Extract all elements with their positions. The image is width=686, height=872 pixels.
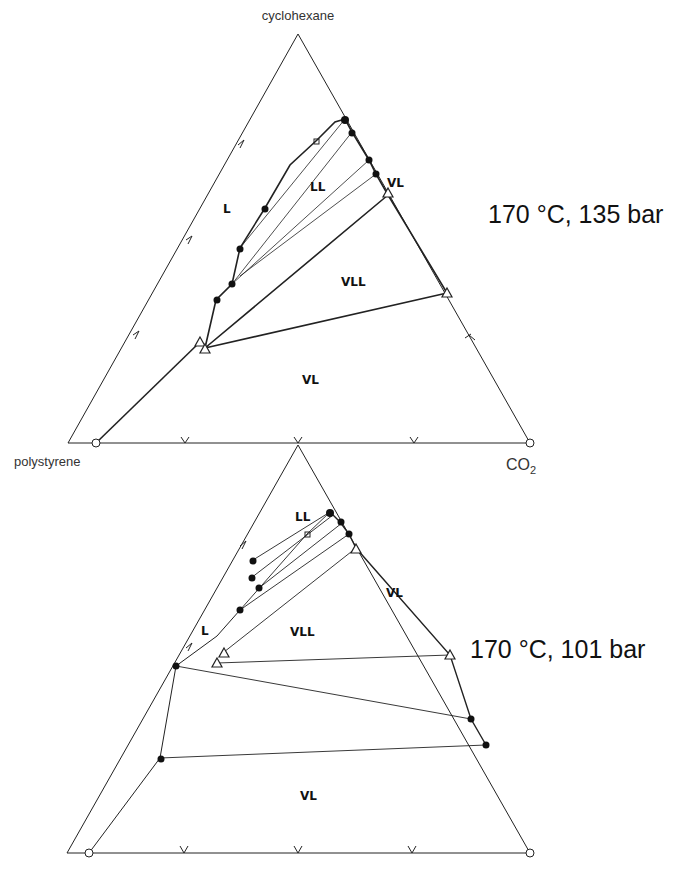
bottom-triangle-frame bbox=[67, 445, 530, 853]
top-region-l: L bbox=[223, 202, 231, 216]
bottom-left-ticks bbox=[186, 541, 246, 651]
bottom-condition-label: 170 °C, 101 bar bbox=[470, 635, 645, 663]
top-triangle-frame bbox=[68, 34, 530, 443]
top-region-vl2: VL bbox=[302, 373, 319, 387]
top-triangles bbox=[195, 188, 452, 353]
ternary-diagrams: cyclohexane polystyrene CO2 L LL VL VLL … bbox=[0, 0, 686, 872]
top-binodal-curve bbox=[205, 119, 345, 348]
bottom-base-ticks bbox=[180, 846, 416, 853]
bottom-tie-lines bbox=[160, 512, 486, 758]
top-vll-triangle bbox=[205, 195, 447, 348]
bottom-binodal-left bbox=[89, 610, 240, 853]
right-vertex-label: CO2 bbox=[506, 456, 536, 476]
top-vertex-label: cyclohexane bbox=[262, 8, 334, 23]
top-region-vl1: VL bbox=[387, 176, 404, 190]
bottom-region-l: L bbox=[201, 624, 209, 638]
bottom-right-line bbox=[330, 512, 486, 745]
bottom-region-vl1: VL bbox=[386, 586, 403, 600]
bottom-region-vl2: VL bbox=[300, 789, 317, 803]
bottom-triangles bbox=[212, 544, 455, 667]
top-base-ticks bbox=[181, 437, 418, 443]
left-vertex-label: polystyrene bbox=[14, 454, 80, 469]
top-condition-label: 170 °C, 135 bar bbox=[488, 200, 663, 228]
bottom-region-vll: VLL bbox=[290, 625, 315, 639]
bottom-region-ll: LL bbox=[295, 510, 311, 524]
top-tie-lines bbox=[232, 119, 376, 284]
top-left-ticks bbox=[133, 140, 244, 339]
top-region-ll: LL bbox=[310, 180, 326, 194]
top-region-vll: VLL bbox=[341, 275, 366, 289]
top-ternary-chart bbox=[68, 34, 534, 447]
top-vl-line bbox=[96, 342, 200, 443]
